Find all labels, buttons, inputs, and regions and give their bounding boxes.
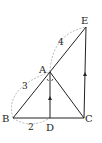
angle-mark-icon xyxy=(52,79,54,81)
measure-AB: 3 xyxy=(22,81,28,91)
parallel-arrow-icon xyxy=(83,72,87,76)
label-A: A xyxy=(38,64,47,75)
measure-BD: 2 xyxy=(28,122,34,132)
label-B: B xyxy=(2,113,9,124)
angle-mark-icon xyxy=(47,79,49,81)
segment-AC xyxy=(50,72,84,118)
label-C: C xyxy=(85,113,93,124)
label-D: D xyxy=(46,122,54,133)
label-E: E xyxy=(81,15,88,26)
parallel-arrow-icon xyxy=(48,96,52,100)
geometry-figure: E A B D C 3 4 2 xyxy=(0,0,102,143)
measure-AE: 4 xyxy=(58,37,64,47)
